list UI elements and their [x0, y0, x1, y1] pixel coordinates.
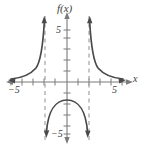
x-tick-label-negative-5: −5: [8, 85, 20, 95]
curve-left-branch: [8, 16, 47, 83]
x-axis-label: x: [133, 74, 137, 84]
curve-right-branch: [87, 16, 126, 83]
graph-canvas: [0, 0, 145, 149]
x-tick-label-positive-5: 5: [112, 85, 117, 95]
y-axis-label: f(x): [57, 3, 72, 14]
function-graph-figure: f(x) x −5 5 5 −5: [0, 0, 145, 149]
y-axis: [64, 12, 69, 144]
y-tick-label-negative-5: −5: [51, 129, 63, 139]
y-tick-label-positive-5: 5: [56, 25, 61, 35]
